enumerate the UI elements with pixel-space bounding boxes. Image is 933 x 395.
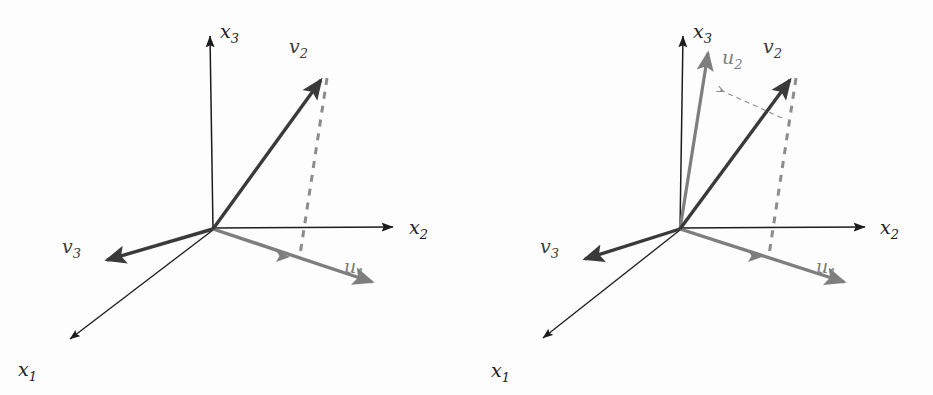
axis-x2-line [213, 227, 393, 228]
axis-label-x2: x2 [880, 216, 899, 242]
vector-label-v2: v2 [289, 35, 308, 61]
axis-x2-line [680, 227, 865, 228]
vector-u2 [680, 53, 708, 229]
vector-v2 [213, 80, 321, 229]
right-panel: x3 x2 x1 v2 v3 u1 u2 [466, 0, 933, 395]
left-panel: x3 x2 x1 v2 v3 u1 [0, 0, 466, 395]
vector-v3 [107, 229, 213, 260]
axis-label-x1: x1 [18, 358, 37, 384]
vector-label-v3: v3 [540, 235, 559, 261]
axis-group [70, 36, 393, 339]
axis-label-x3: x3 [693, 20, 712, 46]
axis-x3-line [210, 36, 213, 229]
axis-x3-line [680, 36, 683, 229]
axis-label-x1: x1 [491, 359, 510, 385]
axis-label-x2: x2 [409, 216, 428, 242]
vector-label-v3: v3 [62, 235, 81, 261]
axis-x1-line [543, 230, 680, 338]
figure-root: x3 x2 x1 v2 v3 u1 [0, 0, 933, 395]
vector-v3 [585, 229, 680, 259]
vector-label-v2: v2 [763, 35, 782, 61]
vector-label-u2: u2 [722, 46, 743, 72]
vector-v2 [680, 80, 790, 229]
axis-label-x3: x3 [220, 20, 239, 46]
axis-x1-line [70, 230, 213, 339]
